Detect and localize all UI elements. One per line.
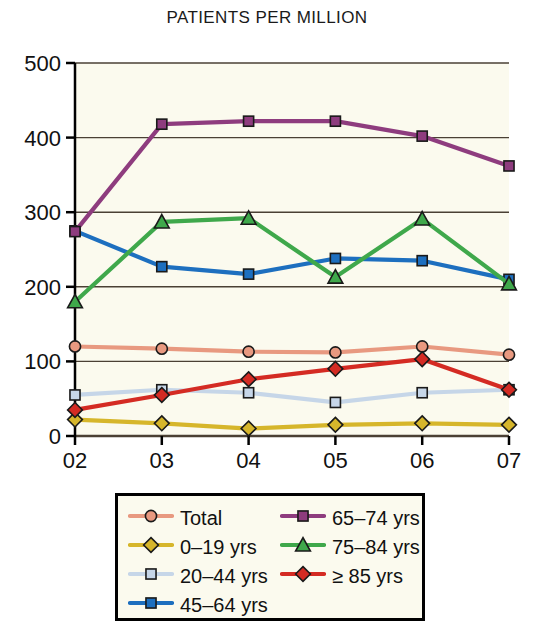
legend-marker-icon xyxy=(280,563,326,589)
data-point-shape xyxy=(330,116,340,126)
legend-label: ≥ 85 yrs xyxy=(332,566,403,586)
legend-marker-icon xyxy=(128,505,174,531)
legend-label: 65–74 yrs xyxy=(332,508,420,528)
data-point xyxy=(330,347,341,358)
data-point xyxy=(244,388,254,398)
legend-item-45-64-yrs[interactable]: 45–64 yrs xyxy=(128,590,280,619)
data-point xyxy=(417,131,427,141)
data-point-shape xyxy=(503,349,514,360)
legend-symbol xyxy=(298,510,308,520)
legend-item-0-19-yrs[interactable]: 0–19 yrs xyxy=(128,532,280,561)
data-point-shape xyxy=(69,341,80,352)
data-point-shape xyxy=(243,346,254,357)
x-tick-label-07: 07 xyxy=(497,448,521,473)
legend-label: 75–84 yrs xyxy=(332,537,420,557)
data-point xyxy=(330,253,340,263)
data-point xyxy=(244,269,254,279)
data-point xyxy=(70,390,80,400)
data-point-shape xyxy=(417,256,427,266)
y-tick-label-400: 400 xyxy=(24,126,61,151)
x-tick-label-02: 02 xyxy=(63,448,87,473)
legend-item-75-84-yrs[interactable]: 75–84 yrs xyxy=(280,532,432,561)
legend-item-total[interactable]: Total xyxy=(128,503,280,532)
chart-legend: Total65–74 yrs0–19 yrs75–84 yrs20–44 yrs… xyxy=(115,493,425,621)
data-point xyxy=(503,349,514,360)
legend-symbol xyxy=(146,568,156,578)
legend-label: 45–64 yrs xyxy=(180,595,268,615)
line-chart-plot: 0100200300400500020304050607 xyxy=(0,0,534,480)
data-point-shape xyxy=(417,388,427,398)
data-point-shape xyxy=(157,262,167,272)
data-point-shape xyxy=(330,347,341,358)
legend-symbol-shape xyxy=(146,568,156,578)
data-point xyxy=(157,262,167,272)
data-point xyxy=(70,227,80,237)
legend-symbol-shape xyxy=(296,566,311,581)
y-tick-label-500: 500 xyxy=(24,51,61,76)
legend-symbol-shape xyxy=(146,597,156,607)
legend-symbol xyxy=(145,510,156,521)
legend-marker-icon xyxy=(280,505,326,531)
data-point-shape xyxy=(417,131,427,141)
data-point xyxy=(330,116,340,126)
data-point xyxy=(504,161,514,171)
y-tick-label-300: 300 xyxy=(24,200,61,225)
legend-marker-icon xyxy=(128,534,174,560)
legend-symbol xyxy=(296,566,311,581)
legend-symbol-shape xyxy=(298,510,308,520)
legend-symbol-shape xyxy=(145,510,156,521)
legend-label: 0–19 yrs xyxy=(180,537,257,557)
data-point xyxy=(244,116,254,126)
y-tick-label-100: 100 xyxy=(24,349,61,374)
legend-label: 20–44 yrs xyxy=(180,566,268,586)
data-point-shape xyxy=(157,119,167,129)
legend-marker-icon xyxy=(280,534,326,560)
x-tick-label-06: 06 xyxy=(410,448,434,473)
legend-item-65-74-yrs[interactable]: 65–74 yrs xyxy=(280,503,432,532)
data-point xyxy=(417,256,427,266)
data-point xyxy=(157,119,167,129)
legend-symbol-shape xyxy=(144,537,159,552)
legend-symbol xyxy=(144,537,159,552)
data-point xyxy=(69,341,80,352)
data-point-shape xyxy=(244,269,254,279)
y-tick-label-0: 0 xyxy=(49,424,61,449)
data-point xyxy=(417,388,427,398)
legend-item--85-yrs[interactable]: ≥ 85 yrs xyxy=(280,561,432,590)
data-point xyxy=(330,397,340,407)
data-point-shape xyxy=(70,227,80,237)
data-point-shape xyxy=(244,116,254,126)
chart-container: PATIENTS PER MILLION 0100200300400500020… xyxy=(0,0,534,634)
legend-marker-icon xyxy=(128,592,174,618)
data-point-shape xyxy=(330,397,340,407)
data-point-shape xyxy=(330,253,340,263)
data-point xyxy=(243,346,254,357)
data-point-shape xyxy=(417,341,428,352)
legend-marker-icon xyxy=(128,563,174,589)
x-tick-label-03: 03 xyxy=(150,448,174,473)
legend-item-20-44-yrs[interactable]: 20–44 yrs xyxy=(128,561,280,590)
legend-symbol xyxy=(146,597,156,607)
data-point xyxy=(156,343,167,354)
data-point-shape xyxy=(504,161,514,171)
legend-grid: Total65–74 yrs0–19 yrs75–84 yrs20–44 yrs… xyxy=(118,496,422,618)
data-point-shape xyxy=(70,390,80,400)
data-point xyxy=(417,341,428,352)
y-tick-label-200: 200 xyxy=(24,275,61,300)
legend-label: Total xyxy=(180,508,222,528)
data-point-shape xyxy=(156,343,167,354)
x-tick-label-05: 05 xyxy=(323,448,347,473)
x-tick-label-04: 04 xyxy=(236,448,260,473)
data-point-shape xyxy=(244,388,254,398)
